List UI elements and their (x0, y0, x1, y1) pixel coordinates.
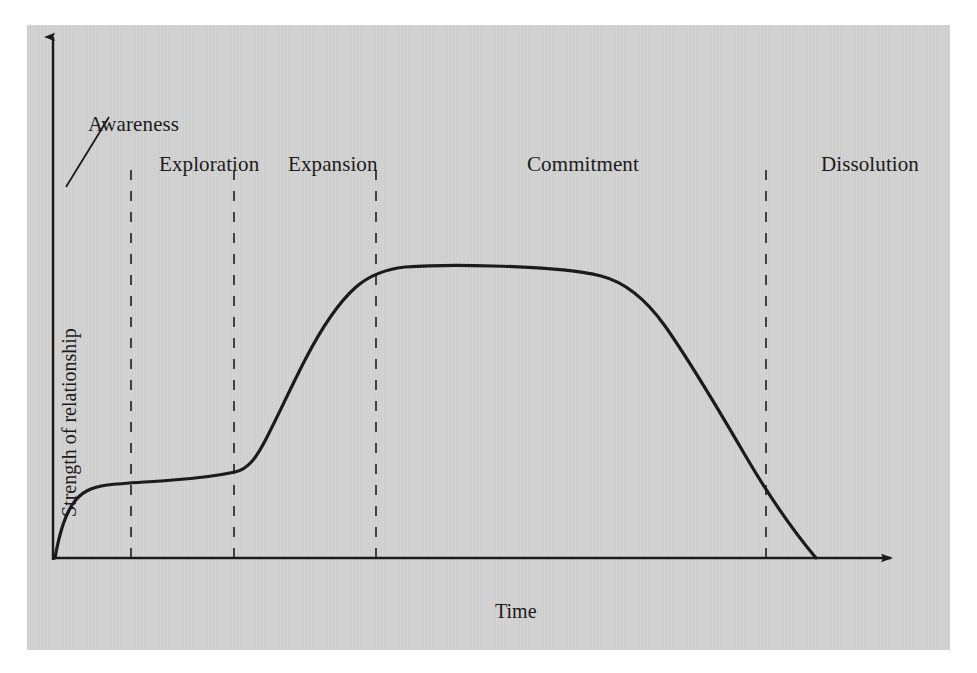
y-axis-label: Strength of relationship (58, 328, 81, 517)
relationship-strength-curve (55, 265, 816, 558)
stage-label-awareness: Awareness (88, 112, 179, 137)
chart-canvas (0, 0, 950, 648)
stage-label-dissolution: Dissolution (821, 152, 919, 177)
x-axis-label: Time (495, 600, 537, 623)
stage-label-commitment: Commitment (527, 152, 639, 177)
figure-root: Awareness Exploration Expansion Commitme… (0, 0, 977, 673)
stage-divider-group (131, 170, 766, 557)
stage-label-expansion: Expansion (288, 152, 378, 177)
stage-label-exploration: Exploration (159, 152, 259, 177)
